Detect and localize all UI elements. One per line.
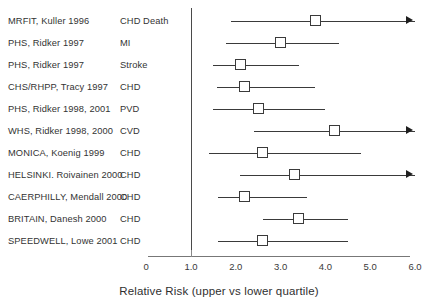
x-axis-title: Relative Risk (upper vs lower quartile) bbox=[0, 285, 438, 297]
point-estimate-marker bbox=[310, 15, 321, 26]
x-axis-line bbox=[148, 256, 410, 257]
confidence-interval-row bbox=[0, 230, 438, 252]
confidence-interval-row bbox=[0, 10, 438, 32]
point-estimate-marker bbox=[257, 147, 268, 158]
plot-area bbox=[0, 0, 438, 260]
confidence-interval-row bbox=[0, 208, 438, 230]
confidence-interval-row bbox=[0, 164, 438, 186]
confidence-interval-row bbox=[0, 32, 438, 54]
confidence-interval-row bbox=[0, 120, 438, 142]
confidence-interval-line bbox=[218, 241, 348, 242]
x-axis-tick-label: 0 bbox=[144, 261, 149, 272]
interval-truncation-arrow bbox=[406, 16, 413, 24]
x-axis-tick-label: 6.0 bbox=[408, 261, 421, 272]
point-estimate-marker bbox=[329, 125, 340, 136]
confidence-interval-line bbox=[218, 197, 308, 198]
confidence-interval-line bbox=[213, 109, 325, 110]
point-estimate-marker bbox=[253, 103, 264, 114]
point-estimate-marker bbox=[239, 191, 250, 202]
forest-plot: MRFIT, Kuller 1996CHD DeathPHS, Ridker 1… bbox=[0, 0, 438, 307]
confidence-interval-line bbox=[213, 65, 298, 66]
point-estimate-marker bbox=[257, 235, 268, 246]
confidence-interval-line bbox=[231, 21, 415, 22]
x-axis-tick-label: 1.0 bbox=[184, 261, 197, 272]
confidence-interval-row bbox=[0, 76, 438, 98]
point-estimate-marker bbox=[293, 213, 304, 224]
point-estimate-marker bbox=[275, 37, 286, 48]
point-estimate-marker bbox=[289, 169, 300, 180]
x-axis-tick-label: 5.0 bbox=[364, 261, 377, 272]
x-axis-tick-mark bbox=[191, 250, 192, 257]
point-estimate-marker bbox=[235, 59, 246, 70]
confidence-interval-row bbox=[0, 98, 438, 120]
confidence-interval-row bbox=[0, 186, 438, 208]
x-axis-tick-label: 3.0 bbox=[274, 261, 287, 272]
confidence-interval-row bbox=[0, 142, 438, 164]
confidence-interval-line bbox=[217, 87, 315, 88]
x-axis-tick-label: 4.0 bbox=[319, 261, 332, 272]
confidence-interval-line bbox=[209, 153, 361, 154]
point-estimate-marker bbox=[239, 81, 250, 92]
confidence-interval-line bbox=[263, 219, 348, 220]
confidence-interval-row bbox=[0, 54, 438, 76]
x-axis-tick-label: 2.0 bbox=[229, 261, 242, 272]
interval-truncation-arrow bbox=[406, 126, 413, 134]
confidence-interval-line bbox=[240, 175, 415, 176]
interval-truncation-arrow bbox=[406, 170, 413, 178]
